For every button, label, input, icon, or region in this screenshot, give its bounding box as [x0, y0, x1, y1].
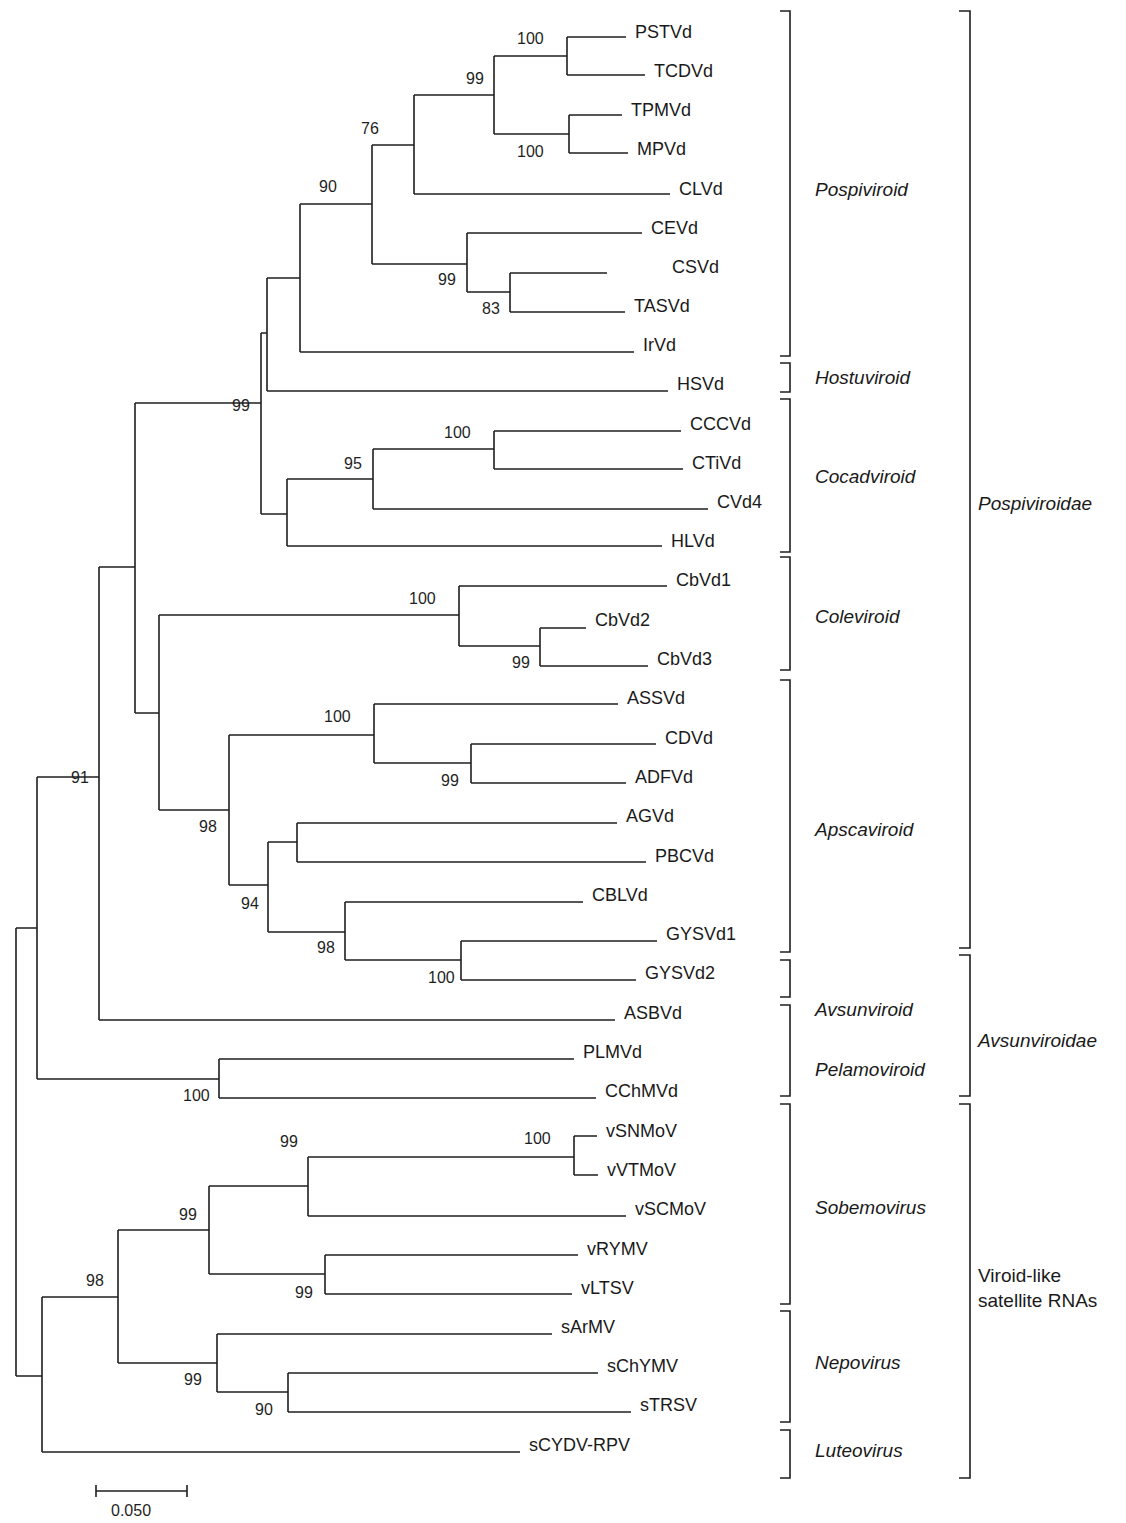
bootstrap-value: 100: [324, 708, 351, 725]
tree-branch: [540, 628, 648, 666]
family-label: Pospiviroidae: [978, 493, 1092, 514]
genus-bracket: [780, 363, 790, 392]
tree-branch: [373, 449, 708, 509]
tree-branch: [261, 333, 287, 514]
genus-label: Luteovirus: [815, 1440, 903, 1461]
tree-branch: [467, 233, 642, 292]
genus-label: Apscaviroid: [814, 819, 915, 840]
leaf-label: GYSVd1: [666, 924, 736, 944]
leaf-label: CbVd2: [595, 610, 650, 630]
bootstrap-value: 99: [438, 271, 456, 288]
bootstrap-value: 99: [441, 772, 459, 789]
scale-bar: 0.050: [96, 1485, 187, 1519]
bootstrap-value: 99: [466, 70, 484, 87]
bootstrap-value: 90: [319, 178, 337, 195]
leaf-label: HSVd: [677, 374, 724, 394]
family-bracket: [959, 955, 970, 1096]
leaf-label: vVTMoV: [607, 1160, 676, 1180]
genus-bracket: [780, 960, 790, 997]
genus-label: Nepovirus: [815, 1352, 901, 1373]
leaf-labels: PSTVdTCDVdTPMVdMPVdCLVdCEVdCSVdTASVdIrVd…: [529, 22, 762, 1455]
scale-bar-label: 0.050: [111, 1502, 151, 1519]
bootstrap-support-values: 1009910076909983991009510099100999198949…: [71, 30, 551, 1418]
bootstrap-value: 90: [255, 1401, 273, 1418]
tree-branch: [159, 615, 459, 810]
genus-label: Cocadviroid: [815, 466, 917, 487]
leaf-label: vLTSV: [581, 1278, 634, 1298]
leaf-label: vSNMoV: [606, 1121, 677, 1141]
tree-branch: [372, 145, 467, 264]
tree-branch: [461, 941, 657, 980]
tree-branch: [494, 56, 569, 134]
tree-branch: [135, 403, 261, 713]
family-bracket: [959, 1104, 970, 1478]
bootstrap-value: 100: [183, 1087, 210, 1104]
leaf-label: MPVd: [637, 139, 686, 159]
tree-branch: [217, 1334, 552, 1392]
genus-brackets: PospiviroidHostuviroidCocadviroidColevir…: [780, 11, 926, 1478]
tree-branch: [288, 1373, 631, 1412]
bootstrap-value: 100: [517, 143, 544, 160]
tree-branch: [37, 777, 219, 1079]
genus-bracket: [780, 399, 790, 552]
family-label: Avsunviroidae: [977, 1030, 1097, 1051]
leaf-label: CBLVd: [592, 885, 648, 905]
genus-label: Coleviroid: [815, 606, 901, 627]
tree-branch: [374, 704, 618, 763]
family-bracket: [959, 11, 970, 948]
genus-bracket: [780, 557, 790, 670]
bootstrap-value: 99: [295, 1284, 313, 1301]
genus-bracket: [780, 1005, 790, 1096]
leaf-label: AGVd: [626, 806, 674, 826]
bootstrap-value: 100: [517, 30, 544, 47]
genus-label: Avsunviroid: [814, 999, 914, 1020]
leaf-label: TPMVd: [631, 100, 691, 120]
bootstrap-value: 100: [409, 590, 436, 607]
bootstrap-value: 99: [512, 654, 530, 671]
leaf-label: PSTVd: [635, 22, 692, 42]
genus-bracket: [780, 1104, 790, 1304]
leaf-label: CCCVd: [690, 414, 751, 434]
bootstrap-value: 95: [344, 455, 362, 472]
leaf-label: GYSVd2: [645, 963, 715, 983]
tree-branch: [574, 1136, 598, 1175]
tree-branch: [16, 928, 42, 1376]
leaf-label: CSVd: [672, 257, 719, 277]
leaf-label: ADFVd: [635, 767, 693, 787]
scale-bar-line: [96, 1485, 187, 1497]
bootstrap-value: 100: [524, 1130, 551, 1147]
genus-label: Pelamoviroid: [815, 1059, 926, 1080]
tree-branch: [325, 1255, 578, 1294]
tree-branch: [569, 115, 628, 153]
leaf-label: CTiVd: [692, 453, 741, 473]
leaf-label: ASBVd: [624, 1003, 682, 1023]
leaf-label: vSCMoV: [635, 1199, 706, 1219]
leaf-label: HLVd: [671, 531, 715, 551]
tree-branch: [494, 431, 683, 469]
bootstrap-value: 83: [482, 300, 500, 317]
leaf-label: CbVd3: [657, 649, 712, 669]
tree-branch: [297, 823, 646, 862]
tree-branch: [287, 479, 662, 546]
leaf-label: TCDVd: [654, 61, 713, 81]
leaf-label: ASSVd: [627, 688, 685, 708]
leaf-label: CChMVd: [605, 1081, 678, 1101]
tree-branch: [219, 1059, 596, 1098]
tree-branch: [345, 902, 583, 960]
bootstrap-value: 99: [179, 1206, 197, 1223]
bootstrap-value: 76: [361, 120, 379, 137]
genus-bracket: [780, 680, 790, 952]
tree-branch: [268, 842, 345, 932]
leaf-label: vRYMV: [587, 1239, 648, 1259]
bootstrap-value: 100: [428, 969, 455, 986]
leaf-label: sArMV: [561, 1317, 615, 1337]
leaf-label: sTRSV: [640, 1395, 697, 1415]
leaf-label: TASVd: [634, 296, 690, 316]
genus-bracket: [780, 1430, 790, 1478]
tree-branch: [99, 567, 615, 1020]
tree-branch: [567, 37, 645, 75]
bootstrap-value: 100: [444, 424, 471, 441]
bootstrap-value: 99: [184, 1371, 202, 1388]
family-label: satellite RNAs: [978, 1290, 1097, 1311]
family-label: Viroid-like: [978, 1265, 1061, 1286]
